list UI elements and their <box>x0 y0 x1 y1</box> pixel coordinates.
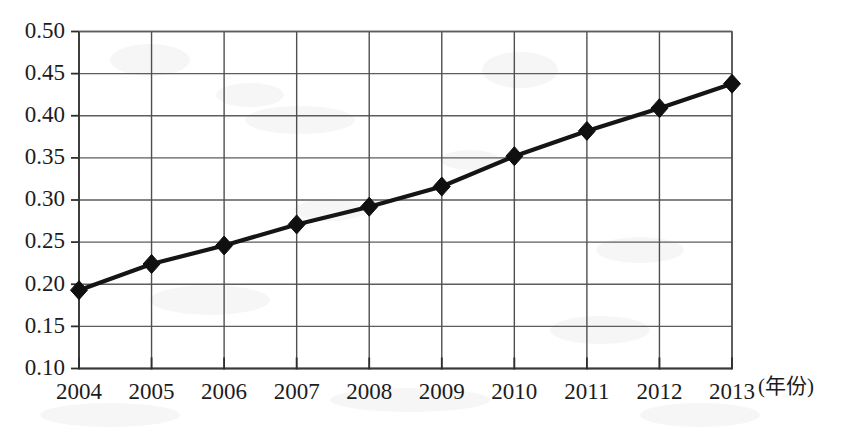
x-tick-label: 2008 <box>346 379 392 404</box>
y-tick-label: 0.40 <box>25 102 65 127</box>
scan-blotch <box>40 403 180 427</box>
y-tick-label: 0.25 <box>25 228 65 253</box>
scan-blotch <box>245 106 355 134</box>
y-tick-label: 0.10 <box>25 355 65 380</box>
x-tick-label: 2011 <box>564 379 609 404</box>
x-tick-label: 2009 <box>419 379 465 404</box>
y-axis-tick-labels: 0.500.450.400.350.300.250.200.150.10 <box>25 18 65 380</box>
y-tick-label: 0.30 <box>25 186 65 211</box>
y-tick-label: 0.15 <box>25 313 65 338</box>
chart-canvas: 0.500.450.400.350.300.250.200.150.10 200… <box>0 0 848 443</box>
y-tick-label: 0.50 <box>25 18 65 43</box>
scan-blotch <box>150 285 270 315</box>
y-tick-label: 0.35 <box>25 144 65 169</box>
y-tick-label: 0.20 <box>25 271 65 296</box>
x-tick-label: 2007 <box>274 379 320 404</box>
x-tick-label: 2005 <box>129 379 175 404</box>
x-tick-label: 2010 <box>491 379 537 404</box>
scan-blotch <box>110 44 190 76</box>
line-chart-figure: 0.500.450.400.350.300.250.200.150.10 200… <box>0 0 848 443</box>
scan-blotch <box>596 237 684 263</box>
scan-blotch <box>482 52 558 88</box>
scan-blotch <box>550 316 650 344</box>
y-tick-label: 0.45 <box>25 60 65 85</box>
x-axis-unit-label: (年份) <box>758 374 814 398</box>
x-tick-label: 2013 <box>709 379 755 404</box>
x-tick-label: 2006 <box>201 379 247 404</box>
scan-blotch <box>216 83 284 107</box>
x-tick-label: 2004 <box>56 379 103 404</box>
x-tick-label: 2012 <box>636 379 682 404</box>
scan-blotch <box>640 403 760 427</box>
